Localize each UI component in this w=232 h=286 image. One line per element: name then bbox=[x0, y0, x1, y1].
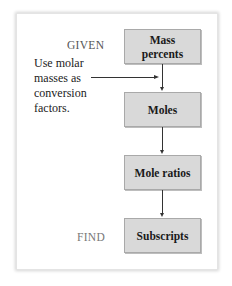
arrow-line bbox=[162, 190, 163, 214]
arrow-line bbox=[162, 127, 163, 151]
step-label: Moles bbox=[148, 103, 177, 117]
arrow-down-icon bbox=[160, 87, 164, 91]
find-label: FIND bbox=[77, 231, 105, 243]
note-arrow-line bbox=[91, 77, 155, 78]
step-label: Mass bbox=[142, 33, 183, 47]
step-label: Mole ratios bbox=[135, 166, 191, 180]
step-label: Subscripts bbox=[137, 229, 189, 243]
step-moles: Moles bbox=[124, 92, 201, 127]
step-mole-ratios: Mole ratios bbox=[124, 155, 201, 190]
note-line: masses as bbox=[34, 71, 87, 86]
conversion-note: Use molar masses as conversion factors. bbox=[34, 56, 87, 116]
step-label: percents bbox=[142, 47, 183, 61]
note-line: factors. bbox=[34, 101, 87, 116]
given-label: GIVEN bbox=[67, 39, 104, 51]
note-line: conversion bbox=[34, 86, 87, 101]
note-arrow-head-icon bbox=[154, 75, 159, 79]
arrow-down-icon bbox=[160, 150, 164, 154]
step-subscripts: Subscripts bbox=[124, 218, 201, 253]
step-mass-percents: Mass percents bbox=[124, 29, 201, 64]
arrow-down-icon bbox=[160, 213, 164, 217]
note-line: Use molar bbox=[34, 56, 87, 71]
arrow-line bbox=[162, 64, 163, 88]
